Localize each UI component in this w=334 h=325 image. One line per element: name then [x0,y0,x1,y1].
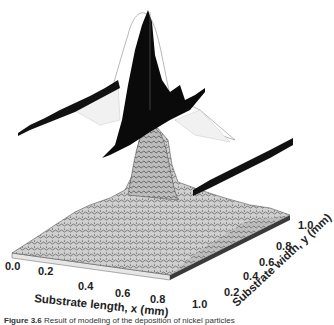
x-tick-5: 1.0 [192,298,207,310]
figure-caption: Figure 3.6 Result of modeling of the dep… [4,316,235,325]
x-tick-2: 0.4 [78,280,93,292]
x-tick-0: 0.0 [5,260,20,272]
caption-text: Result of modeling of the deposition of … [44,316,235,325]
x-tick-1: 0.2 [38,265,53,277]
caption-label: Figure 3.6 [4,316,42,325]
x-tick-3: 0.6 [115,287,130,299]
x-tick-4: 0.8 [150,293,165,305]
surface-base [12,125,290,280]
